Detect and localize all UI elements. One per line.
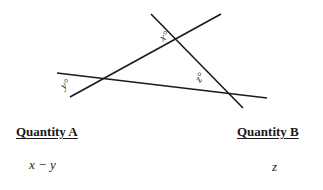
angle-z-label: z° [191, 70, 207, 85]
quantity-a-value: x − y [29, 157, 56, 173]
line-rising [70, 14, 221, 97]
quantity-a-heading: Quantity A [16, 124, 78, 140]
quantity-b-value: z [272, 159, 277, 175]
angle-y-label: y° [57, 76, 73, 92]
quantity-b-heading: Quantity B [237, 124, 299, 140]
line-shallow [57, 73, 267, 98]
geometry-figure: x° y° z° [0, 0, 323, 120]
